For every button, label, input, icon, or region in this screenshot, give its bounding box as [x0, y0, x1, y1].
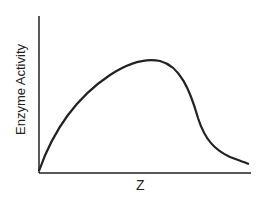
chart-plot [0, 0, 263, 207]
enzyme-activity-curve [39, 60, 249, 171]
x-axis-label: Z [136, 177, 145, 193]
y-axis-label: Enzyme Activity [13, 40, 28, 140]
